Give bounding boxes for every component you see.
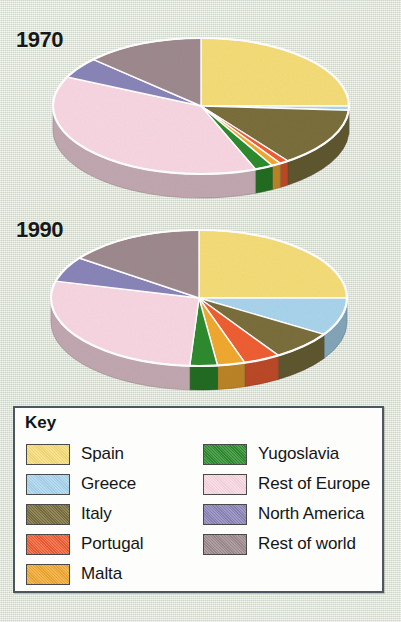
legend-swatch-italy: [26, 504, 70, 525]
legend-key-box: Key SpainGreeceItalyPortugalMalta Yugosl…: [13, 406, 384, 593]
pie-slice-side: [272, 163, 280, 189]
pie-chart-1990: [36, 218, 366, 390]
legend-label: Yugoslavia: [258, 444, 339, 464]
legend-item-portugal: Portugal: [26, 529, 201, 559]
legend-item-spain: Spain: [26, 439, 201, 469]
legend-swatch-rest-of-world: [203, 534, 247, 555]
legend-label: Italy: [81, 504, 112, 524]
legend-label: Spain: [81, 444, 124, 464]
legend-column-left: SpainGreeceItalyPortugalMalta: [26, 439, 201, 589]
legend-swatch-spain: [26, 444, 70, 465]
legend-item-rest-of-europe: Rest of Europe: [203, 469, 383, 499]
legend-label: Malta: [81, 564, 122, 584]
legend-label: Portugal: [81, 534, 144, 554]
legend-swatch-greece: [26, 474, 70, 495]
legend-item-greece: Greece: [26, 469, 201, 499]
pie-slice: [199, 230, 347, 298]
legend-column-right: YugoslaviaRest of EuropeNorth AmericaRes…: [203, 439, 383, 559]
chart-year-label-1970: 1970: [16, 27, 63, 53]
pie-svg-1970: [38, 24, 368, 202]
legend-item-yugoslavia: Yugoslavia: [203, 439, 383, 469]
legend-title: Key: [25, 413, 56, 433]
legend-label: North America: [258, 504, 364, 524]
pie-slice-side: [190, 365, 218, 390]
chart-year-label-1990: 1990: [16, 217, 63, 243]
pie-slice: [201, 38, 349, 106]
legend-swatch-rest-of-europe: [203, 474, 247, 495]
legend-swatch-yugoslavia: [203, 444, 247, 465]
pie-slice-side: [218, 363, 245, 390]
pie-svg-1990: [36, 218, 366, 390]
legend-label: Rest of Europe: [258, 474, 370, 494]
legend-swatch-north-america: [203, 504, 247, 525]
legend-item-malta: Malta: [26, 559, 201, 589]
pie-slice-side: [280, 161, 288, 187]
legend-label: Rest of world: [258, 534, 356, 554]
pie-chart-1970: [38, 24, 368, 202]
legend-item-italy: Italy: [26, 499, 201, 529]
legend-swatch-portugal: [26, 534, 70, 555]
legend-item-rest-of-world: Rest of world: [203, 529, 383, 559]
legend-item-north-america: North America: [203, 499, 383, 529]
legend-label: Greece: [81, 474, 136, 494]
legend-swatch-malta: [26, 564, 70, 585]
